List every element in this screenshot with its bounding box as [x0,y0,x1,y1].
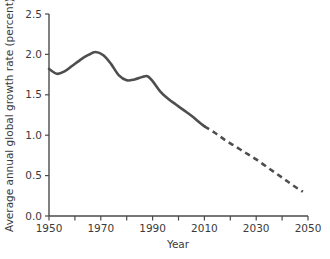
growth-rate-line-chart: 0.00.51.01.52.02.5 195019701990201020302… [0,0,330,259]
y-tick-label: 1.0 [25,129,42,141]
x-tick-label: 1970 [87,222,114,234]
y-tick-label: 0.5 [25,169,42,181]
series-estimated [49,52,204,126]
x-tick-label: 2050 [295,222,322,234]
y-axis: 0.00.51.01.52.02.5 [25,8,49,222]
x-tick-label: 1950 [36,222,63,234]
series-projected [204,126,302,191]
series-lines [49,52,303,192]
y-tick-label: 0.0 [25,210,42,222]
x-axis: 195019701990201020302050 [36,216,322,234]
chart-container: 0.00.51.01.52.02.5 195019701990201020302… [0,0,330,259]
y-tick-label: 1.5 [25,88,42,100]
y-tick-label: 2.0 [25,48,42,60]
y-axis-title: Average annual global growth rate (perce… [3,0,15,232]
x-tick-label: 1990 [139,222,166,234]
y-tick-label: 2.5 [25,8,42,20]
x-axis-title: Year [166,238,190,250]
x-tick-label: 2010 [191,222,218,234]
x-tick-label: 2030 [243,222,270,234]
